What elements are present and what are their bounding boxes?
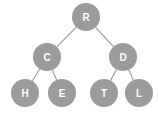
node-label-r: R xyxy=(82,12,90,23)
tree-node-t[interactable]: T xyxy=(90,79,118,107)
node-label-h: H xyxy=(21,88,28,99)
nodes-group: RCDHETL xyxy=(11,3,153,107)
tree-node-r[interactable]: R xyxy=(72,3,100,31)
tree-edge-d-l xyxy=(129,70,134,80)
tree-node-c[interactable]: C xyxy=(33,43,61,71)
tree-edge-d-t xyxy=(111,69,117,80)
node-label-d: D xyxy=(119,52,126,63)
tree-node-e[interactable]: E xyxy=(48,79,76,107)
tree-edge-r-c xyxy=(57,27,76,47)
tree-edge-c-e xyxy=(52,70,56,80)
tree-node-h[interactable]: H xyxy=(11,79,39,107)
tree-edge-c-h xyxy=(32,69,39,81)
tree-node-l[interactable]: L xyxy=(125,79,153,107)
node-label-c: C xyxy=(43,52,50,63)
tree-node-d[interactable]: D xyxy=(109,43,137,71)
diagram-canvas: RCDHETL xyxy=(0,0,158,114)
node-label-e: E xyxy=(59,88,66,99)
tree-edge-r-d xyxy=(96,27,114,46)
node-label-t: T xyxy=(101,88,107,99)
node-label-l: L xyxy=(136,88,142,99)
tree-diagram: RCDHETL xyxy=(0,0,158,114)
